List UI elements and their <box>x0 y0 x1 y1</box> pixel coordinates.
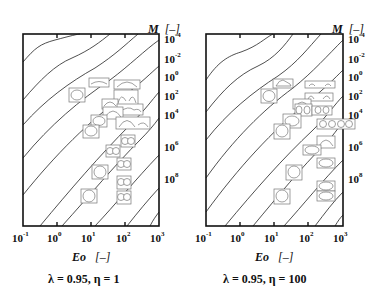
x-tick-label: 102 <box>299 231 314 244</box>
x-tick-label: 101 <box>81 231 96 244</box>
x-tick-label: 100 <box>47 231 62 244</box>
x-tick-label: 103 <box>333 231 348 244</box>
left-chart-panel: M [–] 10-4 10-2 100 102 104 106 108 10-1… <box>0 0 190 302</box>
x-axis-label: Eo [–] <box>72 250 110 265</box>
y-tick-label: 10-2 <box>348 52 365 65</box>
x-tick-label: 100 <box>230 231 245 244</box>
x-tick-label: 101 <box>264 231 279 244</box>
y-tick-label: 100 <box>348 70 363 83</box>
y-tick-label: 100 <box>164 70 179 83</box>
x-tick-label: 10-1 <box>12 231 29 244</box>
y-tick-label: 104 <box>164 108 179 121</box>
right-chart-panel: M [–] 10-4 10-2 100 102 104 106 108 10-1… <box>183 0 373 302</box>
shape-markers <box>69 78 150 204</box>
panel-caption: λ = 0.95, η = 1 <box>48 272 119 287</box>
y-tick-label: 10-4 <box>164 32 181 45</box>
x-tick-label: 102 <box>116 231 131 244</box>
x-axis-label: Eo [–] <box>255 250 293 265</box>
y-tick-label: 10-2 <box>164 52 181 65</box>
y-tick-label: 102 <box>348 89 363 102</box>
y-tick-label: 104 <box>348 108 363 121</box>
x-tick-label: 103 <box>150 231 165 244</box>
y-tick-label: 106 <box>164 140 179 153</box>
y-tick-label: 108 <box>348 172 363 185</box>
x-tick-label: 10-1 <box>195 231 212 244</box>
y-tick-label: 10-4 <box>348 32 365 45</box>
y-tick-label: 108 <box>164 172 179 185</box>
y-tick-label: 106 <box>348 140 363 153</box>
panel-caption: λ = 0.95, η = 100 <box>223 272 306 287</box>
y-tick-label: 102 <box>164 89 179 102</box>
